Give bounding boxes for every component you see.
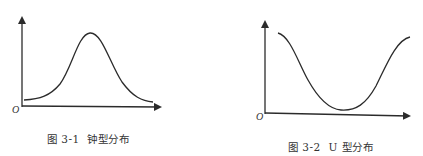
x-axis <box>22 106 160 107</box>
origin-label: O <box>12 104 19 115</box>
x-axis <box>265 113 409 116</box>
bell-curve <box>24 33 153 102</box>
u-curve <box>278 33 410 110</box>
figure-u-distribution: O 图 3-2 U 型分布 <box>210 0 423 156</box>
origin-label: O <box>256 111 263 122</box>
figure-bell-distribution: O 图 3-1 钟型分布 <box>0 0 210 156</box>
figure-caption: 图 3-1 钟型分布 <box>47 131 129 146</box>
u-chart-plot <box>210 0 423 156</box>
figure-caption: 图 3-2 U 型分布 <box>288 139 373 154</box>
